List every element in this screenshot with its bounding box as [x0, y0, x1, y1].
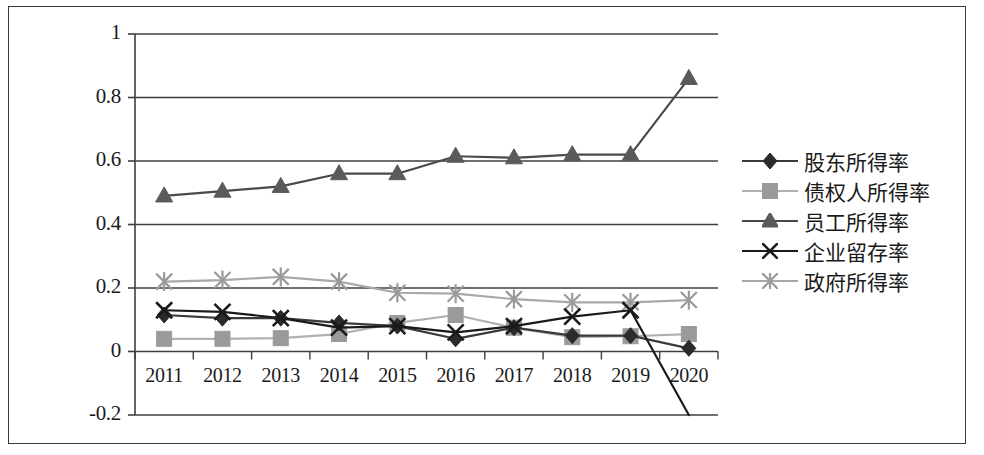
legend-label: 企业留存率 — [804, 236, 909, 266]
data-point-triangle — [331, 165, 348, 180]
y-axis-label: 0.4 — [61, 211, 121, 236]
legend-item[interactable]: 债权人所得率 — [742, 176, 972, 206]
legend-marker-square-icon — [742, 181, 798, 201]
y-axis-label: 0.2 — [61, 274, 121, 299]
data-point-triangle — [505, 149, 522, 164]
series-asterisk — [156, 267, 697, 311]
legend-symbol-triangle-icon — [762, 213, 778, 229]
series-line — [164, 78, 689, 195]
data-point-square — [215, 331, 230, 346]
x-axis-label: 2017 — [482, 364, 546, 387]
legend-label: 政府所得率 — [804, 266, 909, 296]
legend-label: 员工所得率 — [804, 206, 909, 236]
legend-item[interactable]: 股东所得率 — [742, 146, 972, 176]
data-point-square — [448, 307, 463, 322]
legend-symbol-cross-icon — [762, 243, 778, 259]
x-axis-label: 2018 — [540, 364, 604, 387]
x-axis-label: 2019 — [599, 364, 663, 387]
data-point-square — [763, 184, 778, 199]
data-point-cross — [762, 243, 778, 259]
legend-marker-diamond-icon — [742, 151, 798, 171]
data-point-square — [273, 331, 288, 346]
x-axis-label: 2016 — [424, 364, 488, 387]
y-axis-label: -0.2 — [61, 401, 121, 426]
x-axis-label: 2014 — [307, 364, 371, 387]
y-axis-label: 0.8 — [61, 84, 121, 109]
series-line — [164, 277, 689, 302]
series-triangle — [156, 69, 698, 201]
data-point-triangle — [762, 213, 778, 227]
data-point-triangle — [447, 147, 464, 162]
y-axis-label: 0.6 — [61, 147, 121, 172]
data-point-triangle — [680, 69, 697, 84]
legend-marker-asterisk-icon — [742, 271, 798, 291]
x-axis-label: 2020 — [657, 364, 721, 387]
legend-marker-triangle-icon — [742, 211, 798, 231]
data-point-diamond — [763, 153, 777, 169]
data-point-triangle — [564, 146, 581, 161]
data-point-square — [157, 331, 172, 346]
legend-label: 股东所得率 — [804, 146, 909, 176]
legend-item[interactable]: 员工所得率 — [742, 206, 972, 236]
x-axis-label: 2011 — [132, 364, 196, 387]
y-axis-label: 0 — [61, 338, 121, 363]
legend-item[interactable]: 政府所得率 — [742, 266, 972, 296]
y-axis-label: 1 — [61, 20, 121, 45]
data-point-square — [681, 327, 696, 342]
legend-label: 债权人所得率 — [804, 176, 930, 206]
x-axis-label: 2015 — [365, 364, 429, 387]
legend-symbol-diamond-icon — [762, 153, 778, 169]
x-axis-label: 2012 — [190, 364, 254, 387]
legend-symbol-asterisk-icon — [762, 273, 778, 289]
x-axis-label: 2013 — [249, 364, 313, 387]
data-point-asterisk — [762, 273, 778, 289]
chart-legend: 股东所得率债权人所得率员工所得率企业留存率政府所得率 — [742, 146, 972, 296]
legend-marker-cross-icon — [742, 241, 798, 261]
data-point-diamond — [682, 340, 696, 356]
legend-item[interactable]: 企业留存率 — [742, 236, 972, 266]
legend-symbol-square-icon — [762, 183, 778, 199]
